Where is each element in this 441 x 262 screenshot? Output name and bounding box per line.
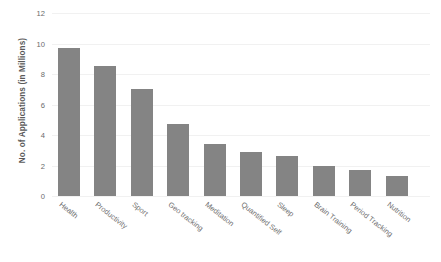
x-axis-tick-labels: HealthProductivitySportGeo trackingMedit…: [52, 198, 430, 262]
y-axis-tick-label: 10: [37, 39, 45, 48]
bar-chart: No. of Applications (in Millions) 024681…: [0, 0, 441, 262]
y-axis-title: No. of Applications (in Millions): [14, 0, 32, 200]
plot-area: 024681012: [52, 13, 430, 196]
y-axis-tick-label: 4: [41, 131, 45, 140]
bar-series: [52, 13, 430, 196]
bar: [313, 166, 335, 197]
gridline: [52, 196, 430, 197]
bar: [204, 144, 226, 196]
y-axis-tick-label: 6: [41, 100, 45, 109]
x-axis-tick-label: Productivity: [94, 200, 130, 231]
y-axis-tick-label: 2: [41, 161, 45, 170]
x-axis-tick-label: Brain Training: [312, 200, 353, 235]
bar: [94, 66, 116, 196]
bar: [167, 124, 189, 196]
y-axis-tick-label: 12: [37, 9, 45, 18]
bar: [349, 170, 371, 196]
bar: [386, 176, 408, 196]
bar: [240, 152, 262, 196]
x-axis-tick-label: Geo tracking: [167, 200, 206, 233]
bar: [131, 89, 153, 196]
y-axis-title-label: No. of Applications (in Millions): [19, 37, 28, 162]
bar: [58, 48, 80, 196]
x-axis-tick-label: Nutrition: [385, 200, 412, 224]
x-axis-tick-label: Meditation: [203, 200, 235, 228]
x-axis-tick-label: Sleep: [276, 200, 296, 219]
y-axis-tick-label: 8: [41, 70, 45, 79]
x-axis-tick-label: Health: [57, 200, 79, 220]
x-axis-tick-label: Sport: [130, 200, 149, 218]
y-axis-tick-label: 0: [41, 192, 45, 201]
bar: [276, 156, 298, 196]
